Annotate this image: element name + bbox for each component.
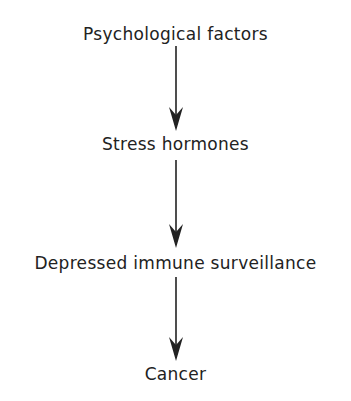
arrow-immune-to-cancer xyxy=(169,277,183,361)
arrow-stress-to-immune xyxy=(169,160,183,248)
diagram-canvas: Psychological factors Stress hormones De… xyxy=(0,0,351,401)
arrows-layer xyxy=(0,0,351,401)
arrow-psychological-to-stress xyxy=(169,46,183,131)
